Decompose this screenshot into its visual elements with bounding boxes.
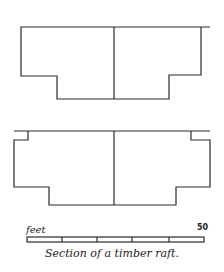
lower-section-outline (14, 131, 210, 205)
scale-unit-label: feet (26, 224, 46, 235)
scale-max-label: 50 (197, 223, 208, 232)
scale-bar (27, 237, 204, 242)
upper-section-outline (21, 27, 210, 99)
figure-caption: Section of a timber raft. (0, 247, 224, 260)
